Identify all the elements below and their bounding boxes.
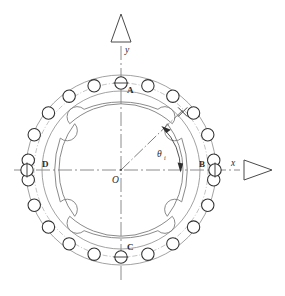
angle-radius-line — [121, 109, 185, 171]
station-label-c: C — [127, 242, 134, 252]
ball — [63, 90, 75, 102]
bearing-diagram: y x O A B C D θ i — [0, 0, 285, 296]
ball — [42, 221, 54, 233]
y-axis-arrowhead-icon — [111, 14, 131, 42]
ball — [167, 90, 179, 102]
x-axis-arrowhead-icon — [244, 160, 272, 180]
ball — [88, 80, 100, 92]
origin-label: O — [112, 175, 119, 185]
station-label-d: D — [42, 159, 49, 169]
station-label-b: B — [199, 159, 205, 169]
ball — [187, 221, 199, 233]
origin-point — [120, 169, 122, 171]
ball — [42, 107, 54, 119]
y-axis-label: y — [124, 45, 130, 55]
ball — [63, 238, 75, 250]
ball — [202, 129, 214, 141]
angle-subscript: i — [164, 155, 166, 161]
ball — [28, 129, 40, 141]
axis-arrowheads — [111, 14, 272, 180]
ball — [28, 199, 40, 211]
angle-symbol: θ — [157, 149, 162, 159]
ball — [142, 80, 154, 92]
x-axis-label: x — [230, 158, 236, 168]
ball — [202, 199, 214, 211]
ball — [167, 238, 179, 250]
bearing-diagram-canvas: y x O A B C D θ i — [0, 0, 285, 296]
station-label-a: A — [127, 85, 134, 95]
ball — [142, 248, 154, 260]
angle-arc-arrowhead-lower-icon — [178, 163, 184, 173]
ball — [88, 248, 100, 260]
ball — [187, 107, 199, 119]
